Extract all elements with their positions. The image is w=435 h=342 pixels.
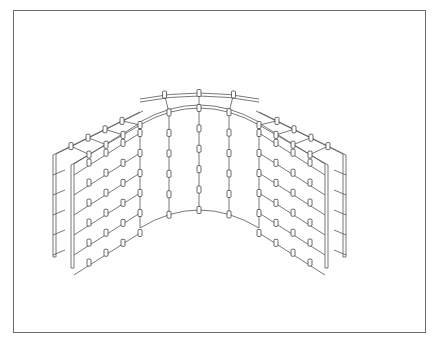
back-panel-top-edge [259, 112, 346, 155]
tie-clip-icon [291, 141, 295, 148]
tie-clip-icon [274, 159, 278, 166]
tie-clip-icon [274, 179, 278, 186]
tie-clip-icon [227, 190, 231, 197]
tie-clip-icon [138, 122, 142, 129]
back-panel-joint [53, 250, 65, 255]
tie-clip-icon [257, 170, 261, 177]
tie-clip-icon [163, 91, 167, 98]
back-panel-joint [53, 230, 65, 235]
tie-clip-icon [138, 170, 142, 177]
tie-clip-icon [257, 230, 261, 237]
tie-clip-icons [69, 90, 330, 267]
tie-clip-icon [69, 143, 73, 150]
tie-clip-icon [197, 125, 201, 132]
tie-clip-icon [120, 117, 124, 124]
tie-clip-icon [121, 139, 125, 146]
top-tie-rod [293, 138, 311, 145]
top-tie-rod [122, 121, 140, 125]
tie-clip-icon [104, 229, 108, 236]
tie-clip-icon [121, 159, 125, 166]
tie-clip-icon [197, 145, 201, 152]
tie-clip-icon [121, 131, 125, 138]
back-panel-joint [334, 210, 346, 215]
tie-clip-icon [104, 141, 108, 148]
tie-clip-icon [197, 186, 201, 193]
tie-clip-icon [167, 170, 171, 177]
tie-clip-icon [257, 130, 261, 137]
tie-clip-icon [87, 151, 91, 158]
tie-clip-icon [291, 249, 295, 256]
tie-clip-icon [87, 199, 91, 206]
tie-clip-icon [87, 179, 91, 186]
tie-clip-icon [291, 209, 295, 216]
top-tie-rod [71, 146, 89, 154]
tie-clip-icon [104, 189, 108, 196]
top-tie-rod [276, 129, 294, 135]
left-wall-panels [53, 111, 143, 275]
tie-clip-icon [274, 131, 278, 138]
tie-clip-icon [104, 249, 108, 256]
tie-clip-icon [227, 109, 231, 116]
back-panel-joint [334, 230, 346, 235]
tie-clip-icon [167, 150, 171, 157]
back-panel-joint [53, 190, 65, 195]
curved-wall-formwork-diagram [0, 0, 435, 342]
top-tie-rod [88, 138, 106, 145]
tie-clip-icon [227, 129, 231, 136]
tie-clip-icon [257, 150, 261, 157]
tie-clip-icon [326, 143, 330, 150]
tie-clip-icon [167, 211, 171, 218]
tie-clip-icon [275, 117, 279, 124]
top-tie-rod [310, 146, 328, 154]
tie-clip-icon [274, 139, 278, 146]
back-panel-joint [53, 170, 65, 175]
tie-clip-icon [308, 259, 312, 266]
tie-clip-icon [167, 191, 171, 198]
tie-clip-icon [227, 150, 231, 157]
tie-clip-icon [197, 207, 201, 214]
tie-clip-icon [309, 134, 313, 141]
tie-clip-icon [86, 134, 90, 141]
tie-clip-icon [308, 219, 312, 226]
tie-clip-icon [87, 219, 91, 226]
tie-clip-icon [87, 259, 91, 266]
tie-clip-icon [121, 219, 125, 226]
back-panel-top-edge [53, 112, 140, 155]
tie-clip-icon [227, 211, 231, 218]
tie-clip-icon [291, 169, 295, 176]
tie-clip-icon [291, 229, 295, 236]
top-tie-rod [259, 121, 277, 125]
tie-clip-icon [197, 166, 201, 173]
tie-clip-icon [257, 122, 261, 129]
tie-clip-icon [121, 179, 125, 186]
back-panel-joint [334, 170, 346, 175]
tie-clip-icon [274, 219, 278, 226]
tie-clip-icon [138, 130, 142, 137]
tie-clip-icon [138, 190, 142, 197]
tie-clip-icon [257, 210, 261, 217]
tie-clip-icon [104, 149, 108, 156]
tie-clip-icon [104, 209, 108, 216]
top-tie-rod [105, 129, 123, 135]
tie-clip-icon [167, 109, 171, 116]
tie-clip-icon [232, 91, 236, 98]
tie-clip-icon [197, 105, 201, 112]
tie-clip-icon [308, 159, 312, 166]
tie-clip-icon [292, 126, 296, 133]
tie-clip-icon [167, 129, 171, 136]
tie-clip-icon [291, 189, 295, 196]
tie-clip-icon [103, 126, 107, 133]
tie-clip-icon [308, 151, 312, 158]
back-panel-joint [334, 190, 346, 195]
tie-clip-icon [308, 179, 312, 186]
tie-clip-icon [274, 239, 278, 246]
tie-clip-icon [138, 210, 142, 217]
right-wall-panels [256, 111, 346, 275]
tie-clip-icon [104, 169, 108, 176]
tie-clip-icon [87, 159, 91, 166]
tie-clip-icon [121, 199, 125, 206]
back-panel-joint [53, 210, 65, 215]
back-panel-joint [334, 250, 346, 255]
tie-clip-icon [257, 190, 261, 197]
tie-clip-icon [291, 149, 295, 156]
